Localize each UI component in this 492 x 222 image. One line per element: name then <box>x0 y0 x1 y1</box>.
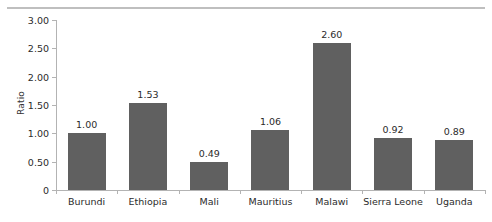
bar[interactable] <box>313 43 351 190</box>
bar[interactable] <box>435 140 473 190</box>
bar[interactable] <box>374 138 412 190</box>
x-axis-category-label: Sierra Leone <box>363 196 423 207</box>
x-axis-tick-mark <box>301 190 302 194</box>
bar-value-label: 0.49 <box>199 148 220 159</box>
x-axis-tick-mark <box>117 190 118 194</box>
x-axis-category-label: Mauritius <box>249 196 293 207</box>
y-axis-tick-label: 0.50 <box>28 156 49 167</box>
bar-group: 1.00Burundi <box>56 20 117 190</box>
x-axis-tick-mark <box>56 190 57 194</box>
x-axis-tick-mark <box>362 190 363 194</box>
y-axis-tick-label: 0 <box>43 185 49 196</box>
bar-group: 1.53Ethiopia <box>117 20 178 190</box>
bar-group: 0.92Sierra Leone <box>362 20 423 190</box>
bar-value-label: 1.00 <box>76 119 97 130</box>
x-axis-tick-mark <box>240 190 241 194</box>
x-axis-tick-mark <box>485 190 486 194</box>
bar-group: 0.89Uganda <box>424 20 485 190</box>
y-axis-tick-label: 2.50 <box>28 43 49 54</box>
bar-value-label: 0.89 <box>444 126 465 137</box>
x-axis-line <box>56 190 485 191</box>
bar[interactable] <box>251 130 289 190</box>
y-axis-title: Ratio <box>16 73 26 133</box>
bar[interactable] <box>190 162 228 190</box>
x-axis-tick-mark <box>424 190 425 194</box>
x-axis-category-label: Malawi <box>315 196 348 207</box>
y-axis-tick-label: 3.00 <box>28 15 49 26</box>
bar-value-label: 2.60 <box>321 29 342 40</box>
bar[interactable] <box>68 133 106 190</box>
bar-value-label: 1.06 <box>260 116 281 127</box>
bar-chart-figure: Ratio 3.002.502.001.501.000.500 1.00Buru… <box>0 0 492 222</box>
bar-value-label: 0.92 <box>382 124 403 135</box>
x-axis-category-label: Uganda <box>436 196 473 207</box>
y-axis-tick-label: 1.00 <box>28 128 49 139</box>
y-axis-tick-label: 1.50 <box>28 100 49 111</box>
bar-group: 0.49Mali <box>179 20 240 190</box>
bar-group: 1.06Mauritius <box>240 20 301 190</box>
top-divider-rule <box>7 7 485 9</box>
bar-group: 2.60Malawi <box>301 20 362 190</box>
y-axis-tick-label: 2.00 <box>28 71 49 82</box>
x-axis-tick-mark <box>179 190 180 194</box>
bar-value-label: 1.53 <box>137 89 158 100</box>
x-axis-category-label: Ethiopia <box>129 196 168 207</box>
bar[interactable] <box>129 103 167 190</box>
x-axis-category-label: Mali <box>200 196 219 207</box>
x-axis-category-label: Burundi <box>68 196 105 207</box>
plot-area: 3.002.502.001.501.000.500 1.00Burundi1.5… <box>56 20 485 190</box>
